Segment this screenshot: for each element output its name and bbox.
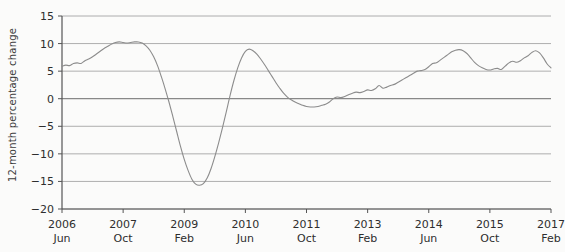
x-tick-label-year: 2011 <box>293 218 321 231</box>
x-tick-label-year: 2017 <box>537 218 565 231</box>
x-tick-label-year: 2015 <box>476 218 504 231</box>
x-tick-label-year: 2013 <box>354 218 382 231</box>
y-tick-label: 10 <box>40 38 54 51</box>
y-tick-label: 15 <box>40 10 54 23</box>
x-tick-label-year: 2010 <box>231 218 259 231</box>
x-tick-label-month: Feb <box>541 232 560 245</box>
chart-container: 151050−5−10−15−20 2006Jun2007Oct2009Feb2… <box>0 0 565 252</box>
x-tick-label-year: 2009 <box>170 218 198 231</box>
x-tick-label-month: Oct <box>480 232 500 245</box>
x-tick-label-month: Oct <box>297 232 317 245</box>
y-tick-label: −20 <box>31 203 54 216</box>
y-tick-label: −10 <box>31 148 54 161</box>
x-tick-label-year: 2006 <box>48 218 76 231</box>
x-tick-label-month: Jun <box>419 232 437 245</box>
x-tick-label-year: 2007 <box>109 218 137 231</box>
x-tick-label-month: Feb <box>358 232 377 245</box>
y-tick-label: 5 <box>47 65 54 78</box>
line-chart: 151050−5−10−15−20 2006Jun2007Oct2009Feb2… <box>0 0 565 252</box>
x-tick-label-month: Oct <box>114 232 134 245</box>
x-tick-label-month: Jun <box>236 232 254 245</box>
y-tick-label: −15 <box>31 175 54 188</box>
x-tick-label-month: Jun <box>52 232 70 245</box>
y-axis-title: 12-month percentage change <box>7 28 18 182</box>
y-tick-label: 0 <box>47 93 54 106</box>
x-tick-label-month: Feb <box>175 232 194 245</box>
y-tick-label: −5 <box>38 120 54 133</box>
x-tick-label-year: 2014 <box>415 218 443 231</box>
